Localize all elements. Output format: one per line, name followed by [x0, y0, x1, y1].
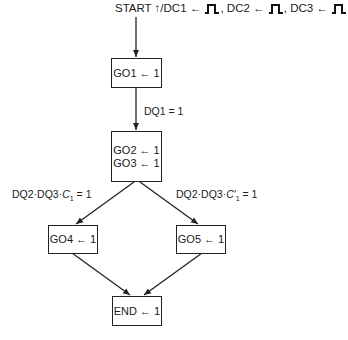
start-label: START ↑/DC1 ←	[115, 2, 204, 14]
label-prefix: DQ2·DQ3·	[12, 188, 62, 200]
edge-label-left-branch: DQ2·DQ3·C1 = 1	[12, 188, 92, 202]
node-text: END ← 1	[114, 305, 160, 318]
flow-arrows	[0, 0, 348, 340]
node-text: GO3 ← 1	[113, 157, 159, 170]
label-var: C′	[226, 188, 236, 200]
node-go4: GO4 ← 1	[48, 225, 98, 254]
node-text: GO4 ← 1	[50, 233, 96, 246]
pulse-icon	[269, 4, 283, 14]
pulse-icon	[332, 4, 346, 14]
label-var: C	[62, 188, 70, 200]
node-text: GO2 ← 1	[113, 144, 159, 157]
edge-label-right-branch: DQ2·DQ3·C′1 = 1	[176, 188, 257, 202]
dc2-label: , DC2 ←	[220, 2, 267, 14]
start-condition: START ↑/DC1 ← , DC2 ← , DC3 ←	[115, 2, 347, 14]
node-go5: GO5 ← 1	[176, 225, 226, 254]
edge-label-dq1: DQ1 = 1	[144, 105, 183, 117]
label-suffix: = 1	[74, 188, 92, 200]
node-go2-go3: GO2 ← 1 GO3 ← 1	[111, 131, 162, 182]
node-text: GO1 ← 1	[113, 67, 159, 80]
node-end: END ← 1	[112, 296, 162, 326]
label-suffix: = 1	[240, 188, 258, 200]
pulse-icon	[205, 4, 219, 14]
node-text: GO5 ← 1	[178, 233, 224, 246]
dc3-label: , DC3 ←	[284, 2, 331, 14]
node-go1: GO1 ← 1	[111, 58, 162, 88]
label-prefix: DQ2·DQ3·	[176, 188, 226, 200]
